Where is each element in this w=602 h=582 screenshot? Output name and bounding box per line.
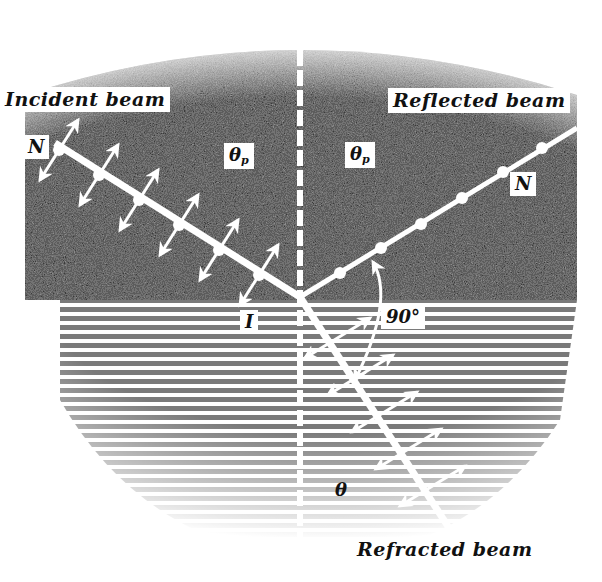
theta-symbol: θ bbox=[350, 143, 362, 164]
theta-p-right-label: θp bbox=[345, 142, 375, 168]
incident-beam-label: Incident beam bbox=[0, 87, 170, 112]
interface-label: I bbox=[240, 310, 258, 334]
brewster-angle-diagram: Incident beam Reflected beam Refracted b… bbox=[0, 0, 602, 582]
refracted-beam-label: Refracted beam bbox=[352, 537, 538, 562]
theta-subscript: p bbox=[241, 154, 249, 167]
theta-subscript: p bbox=[362, 153, 370, 166]
theta-p-left-label: θp bbox=[224, 143, 254, 169]
theta-symbol: θ bbox=[229, 144, 241, 165]
theta-refracted-label: θ bbox=[330, 478, 352, 502]
reflected-beam-label: Reflected beam bbox=[388, 88, 570, 113]
normal-label-reflected: N bbox=[510, 172, 536, 196]
normal-label-incident: N bbox=[23, 135, 49, 159]
right-angle-label: 90° bbox=[381, 305, 425, 329]
